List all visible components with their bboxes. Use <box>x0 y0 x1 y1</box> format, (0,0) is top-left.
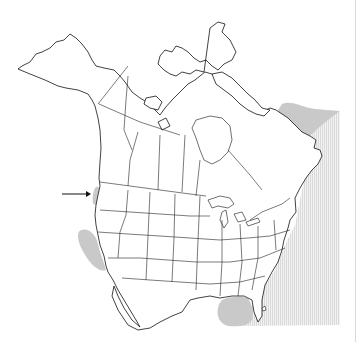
frame-edge <box>355 0 356 342</box>
arrowhead-icon <box>86 191 91 197</box>
arctic-islands <box>158 22 236 76</box>
range-map <box>0 0 359 342</box>
range-arrow <box>62 191 91 197</box>
gulf-of-mexico-range <box>217 297 252 327</box>
